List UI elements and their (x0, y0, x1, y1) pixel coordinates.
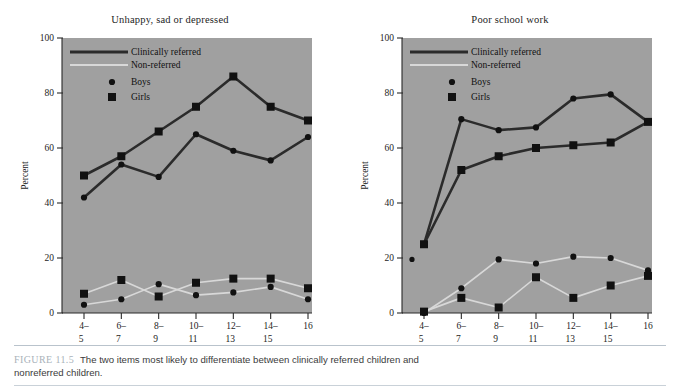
plot-background (62, 38, 312, 313)
legend-label-girls: Girls (471, 92, 490, 102)
x-tick-label-top: 6– (117, 321, 127, 331)
x-tick-label-top: 4– (79, 321, 89, 331)
figure-caption: FIGURE 11.5 The two items most likely to… (14, 353, 434, 379)
data-point-boys (268, 284, 274, 290)
x-tick-label-bottom: 5 (79, 334, 84, 344)
data-point-boys (81, 194, 87, 200)
data-point-boys (305, 296, 311, 302)
x-tick-label-top: 14– (604, 321, 619, 331)
plot-background (402, 38, 652, 313)
y-tick-label: 100 (380, 33, 395, 43)
y-tick-label: 0 (49, 308, 54, 318)
x-tick-label-top: 16 (303, 321, 313, 331)
data-point-girls (457, 166, 465, 174)
data-point-boys (230, 148, 236, 154)
y-tick-label: 0 (389, 308, 394, 318)
data-point-girls (569, 294, 577, 302)
x-tick-label-bottom: 15 (603, 334, 613, 344)
data-point-boys (118, 161, 124, 167)
data-point-girls (607, 282, 615, 290)
chart-svg-left: 020406080100Percent4–56–78–910–1112–1314… (0, 0, 340, 345)
data-point-boys (570, 254, 576, 260)
caption-divider-bottom (14, 385, 666, 386)
data-point-girls (495, 152, 503, 160)
y-tick-label: 60 (45, 143, 55, 153)
data-point-girls (532, 144, 540, 152)
x-tick-label-bottom: 15 (263, 334, 273, 344)
x-tick-label-top: 12– (226, 321, 241, 331)
data-point-girls (267, 103, 275, 111)
y-tick-label: 40 (385, 198, 395, 208)
x-tick-label-top: 10– (529, 321, 544, 331)
legend-label-non-referred: Non-referred (131, 60, 181, 70)
x-tick-label-top: 8– (494, 321, 504, 331)
x-tick-label-bottom: 7 (116, 334, 121, 344)
data-point-boys (570, 95, 576, 101)
data-point-boys (193, 131, 199, 137)
chart-panel-right: Poor school work 020406080100Percent4–56… (340, 0, 680, 345)
data-point-boys (268, 157, 274, 163)
x-tick-label-bottom: 13 (566, 334, 576, 344)
data-point-girls (192, 279, 200, 287)
data-point-boys (81, 302, 87, 308)
y-tick-label: 60 (385, 143, 395, 153)
y-tick-label: 80 (385, 88, 395, 98)
y-tick-label: 20 (385, 253, 395, 263)
data-point-girls (644, 118, 652, 126)
data-point-girls (192, 103, 200, 111)
legend-label-non-referred: Non-referred (471, 60, 521, 70)
legend-label-clinically-referred: Clinically referred (131, 47, 201, 57)
x-tick-label-top: 10– (189, 321, 204, 331)
legend-label-boys: Boys (131, 77, 151, 87)
data-point-girls (304, 117, 312, 125)
data-point-girls (420, 240, 428, 248)
data-point-girls (644, 272, 652, 280)
data-point-boys (608, 91, 614, 97)
data-point-boys (496, 256, 502, 262)
figure-caption-block: FIGURE 11.5 The two items most likely to… (0, 345, 680, 391)
data-point-boys (156, 281, 162, 287)
y-tick-label: 20 (45, 253, 55, 263)
legend-marker-boys (449, 79, 455, 85)
data-point-boys (193, 292, 199, 298)
data-point-girls (457, 294, 465, 302)
legend-label-clinically-referred: Clinically referred (471, 47, 541, 57)
x-tick-label-top: 12– (566, 321, 581, 331)
x-tick-label-top: 8– (154, 321, 164, 331)
data-point-girls (304, 284, 312, 292)
x-tick-label-top: 14– (264, 321, 279, 331)
figure-container: Unhappy, sad or depressed 020406080100Pe… (0, 0, 680, 391)
data-point-girls (495, 304, 503, 312)
data-point-girls (155, 293, 163, 301)
x-tick-label-top: 4– (419, 321, 429, 331)
legend-marker-girls (108, 93, 116, 101)
data-point-girls (229, 275, 237, 283)
data-point-girls (155, 128, 163, 136)
data-point-boys (533, 260, 539, 266)
data-point-boys (608, 255, 614, 261)
x-tick-label-bottom: 11 (188, 334, 197, 344)
data-point-girls (607, 139, 615, 147)
x-tick-label-bottom: 9 (493, 334, 498, 344)
data-point-boys (496, 127, 502, 133)
x-tick-label-top: 6– (457, 321, 467, 331)
caption-divider-top (14, 345, 666, 346)
x-tick-label-bottom: 9 (153, 334, 158, 344)
data-point-boys (230, 289, 236, 295)
legend-label-girls: Girls (131, 92, 150, 102)
y-tick-label: 80 (45, 88, 55, 98)
data-point-boys (156, 174, 162, 180)
data-point-boys (458, 116, 464, 122)
legend-marker-girls (448, 93, 456, 101)
data-point-girls (117, 276, 125, 284)
y-tick-label: 40 (45, 198, 55, 208)
data-point-girls (80, 290, 88, 298)
data-point-girls (229, 73, 237, 81)
legend-marker-boys (109, 79, 115, 85)
x-tick-label-bottom: 13 (226, 334, 236, 344)
data-point-girls (569, 141, 577, 149)
y-axis-title: Percent (20, 161, 30, 190)
y-tick-label: 100 (40, 33, 55, 43)
data-point-boys (305, 134, 311, 140)
stray-data-point (409, 257, 414, 262)
